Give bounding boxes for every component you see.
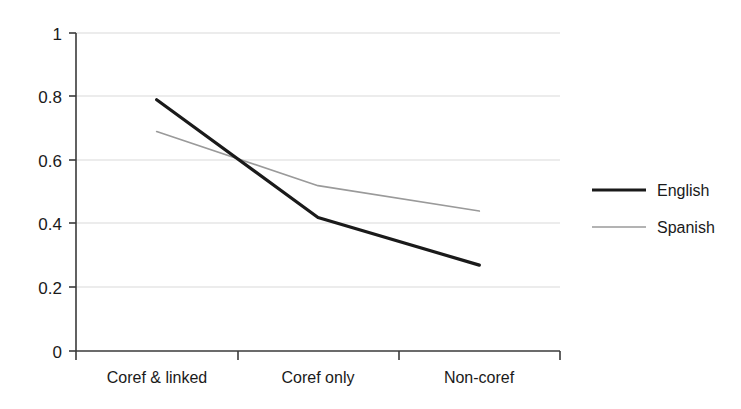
x-tick-label-coref-and-linked: Coref & linked (107, 369, 208, 386)
legend-item-english[interactable]: English (592, 182, 709, 199)
series-line-spanish (157, 132, 480, 212)
y-tick-label-0.2: 0.2 (38, 279, 62, 298)
line-chart: 1 0.8 0.6 0.4 0.2 0 Coref & linked Coref… (0, 0, 741, 409)
legend-item-spanish[interactable]: Spanish (592, 219, 715, 236)
x-tick-label-coref-only: Coref only (282, 369, 355, 386)
y-axis: 1 0.8 0.6 0.4 0.2 0 (38, 25, 76, 362)
series-line-english (157, 100, 480, 265)
y-tick-label-0.6: 0.6 (38, 152, 62, 171)
y-tick-label-1: 1 (53, 25, 62, 44)
legend-label-spanish: Spanish (657, 219, 715, 236)
x-tick-label-non-coref: Non-coref (444, 369, 515, 386)
x-axis: Coref & linked Coref only Non-coref (76, 351, 560, 386)
y-tick-label-0.8: 0.8 (38, 88, 62, 107)
gridlines (76, 33, 560, 287)
chart-canvas: 1 0.8 0.6 0.4 0.2 0 Coref & linked Coref… (0, 0, 741, 409)
legend-label-english: English (657, 182, 709, 199)
y-tick-label-0: 0 (53, 343, 62, 362)
legend: English Spanish (592, 182, 715, 236)
series-lines (157, 100, 480, 265)
y-tick-label-0.4: 0.4 (38, 215, 62, 234)
